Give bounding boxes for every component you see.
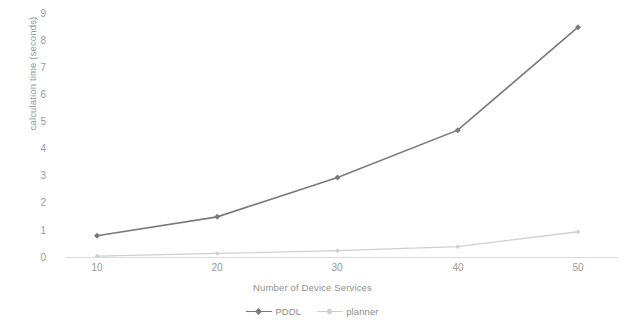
line-chart: calculation time (seconds) 9 8 7 6 5 4 3… [0, 0, 625, 327]
data-point-marker [214, 214, 220, 220]
chart-legend: PDDL planner [0, 306, 625, 317]
legend-item-planner[interactable]: planner [317, 306, 378, 317]
data-point-marker [94, 233, 100, 239]
legend-swatch-planner-icon [317, 307, 343, 317]
data-point-marker [576, 229, 581, 234]
data-point-marker [335, 175, 341, 181]
legend-label-pddl: PDDL [275, 306, 301, 317]
x-tick-label: 50 [572, 262, 583, 274]
data-point-marker [455, 244, 460, 249]
x-tick-label: 20 [211, 262, 222, 274]
x-tick-label: 10 [91, 262, 102, 274]
series-markers-pddl [94, 24, 581, 239]
legend-swatch-pddl-icon [246, 307, 272, 317]
series-line-pddl [97, 27, 578, 236]
data-point-marker [215, 251, 220, 256]
x-tick-label: 40 [452, 262, 463, 274]
x-tick-label: 30 [331, 262, 342, 274]
data-point-marker [335, 248, 340, 253]
legend-label-planner: planner [346, 306, 378, 317]
x-axis-title: Number of Device Services [0, 282, 625, 293]
x-axis-tick-labels: 10 20 30 40 50 [0, 262, 625, 278]
legend-item-pddl[interactable]: PDDL [246, 306, 301, 317]
